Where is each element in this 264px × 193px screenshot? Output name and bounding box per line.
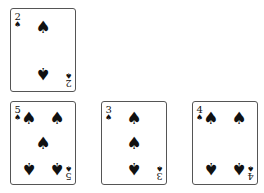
card-index-top-left: 5♠ xyxy=(14,105,21,122)
card-index-bottom-right: 3♠ xyxy=(156,164,163,181)
spade-icon: ♠ xyxy=(203,110,218,127)
card-index-top-left: 2♠ xyxy=(14,12,21,29)
spade-icon: ♠ xyxy=(105,114,112,122)
spade-icon: ♠ xyxy=(196,114,203,122)
card-three-of-spades[interactable]: 3♠3♠♠♠♠ xyxy=(101,101,167,185)
card-index-top-left: 3♠ xyxy=(105,105,112,122)
spade-icon: ♠ xyxy=(231,110,246,127)
spade-icon: ♠ xyxy=(49,159,64,176)
spade-icon: ♠ xyxy=(21,159,36,176)
card-two-of-spades[interactable]: 2♠2♠♠♠ xyxy=(10,8,76,92)
spade-icon: ♠ xyxy=(126,135,141,152)
spade-icon: ♠ xyxy=(65,164,72,172)
spade-icon: ♠ xyxy=(21,110,36,127)
spade-icon: ♠ xyxy=(35,135,50,152)
spade-icon: ♠ xyxy=(247,164,254,172)
spade-icon: ♠ xyxy=(156,164,163,172)
spade-icon: ♠ xyxy=(14,21,21,29)
card-index-bottom-right: 2♠ xyxy=(65,71,72,88)
card-index-top-left: 4♠ xyxy=(196,105,203,122)
spade-icon: ♠ xyxy=(65,71,72,79)
card-index-bottom-right: 5♠ xyxy=(65,164,72,181)
spade-icon: ♠ xyxy=(14,114,21,122)
spade-icon: ♠ xyxy=(126,110,141,127)
card-four-of-spades[interactable]: 4♠4♠♠♠♠♠ xyxy=(192,101,258,185)
card-index-bottom-right: 4♠ xyxy=(247,164,254,181)
spade-icon: ♠ xyxy=(231,159,246,176)
spade-icon: ♠ xyxy=(126,159,141,176)
spade-icon: ♠ xyxy=(35,64,50,81)
card-five-of-spades[interactable]: 5♠5♠♠♠♠♠♠ xyxy=(10,101,76,185)
spade-icon: ♠ xyxy=(35,19,50,36)
spade-icon: ♠ xyxy=(203,159,218,176)
spade-icon: ♠ xyxy=(49,110,64,127)
